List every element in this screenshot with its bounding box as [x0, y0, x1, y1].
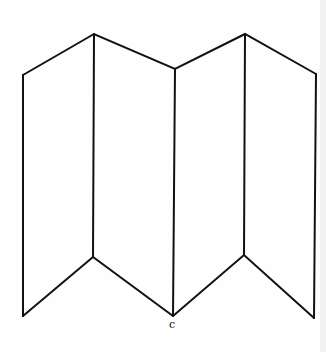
fold-line-3 — [173, 69, 175, 316]
fold-line-4 — [244, 34, 245, 255]
fold-line-5 — [314, 74, 316, 318]
bottom-edge — [23, 255, 314, 318]
fold-line-2 — [93, 34, 94, 257]
figure-canvas: c — [0, 0, 326, 352]
figure-label: c — [169, 318, 175, 331]
top-edge — [23, 34, 316, 75]
folding-screen-drawing — [0, 0, 326, 352]
